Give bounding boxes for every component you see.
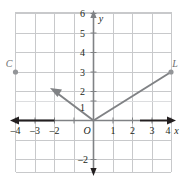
x-label-3: 3 <box>150 125 155 136</box>
x-label--4: –4 <box>10 125 21 136</box>
x-label-2: 2 <box>130 125 135 136</box>
y-label-4: 4 <box>80 47 85 58</box>
origin-label: O <box>83 125 90 136</box>
y-label-3: 3 <box>80 67 85 78</box>
x-axis-letter: x <box>173 125 179 136</box>
point-l-marker[interactable] <box>168 69 173 74</box>
point-l-label: L <box>171 58 178 69</box>
y-axis-letter: y <box>98 13 104 24</box>
y-label-6: 6 <box>80 8 85 19</box>
x-label-4: 4 <box>166 125 171 136</box>
x-label-1: 1 <box>111 125 116 136</box>
coordinate-plane-figure: –4 –3 –2 1 2 3 4 O x 6 5 4 3 2 1 –2 y C … <box>0 0 180 180</box>
y-label--2: –2 <box>77 154 88 165</box>
y-label-2: 2 <box>80 86 85 97</box>
point-c-label: C <box>6 58 13 69</box>
point-c-marker[interactable] <box>13 69 18 74</box>
y-label-5: 5 <box>80 28 85 39</box>
plot-svg: –4 –3 –2 1 2 3 4 O x 6 5 4 3 2 1 –2 y C … <box>0 0 180 180</box>
x-label--2: –2 <box>49 125 60 136</box>
y-label-1: 1 <box>80 102 85 113</box>
figure-background <box>0 0 180 180</box>
x-label--3: –3 <box>29 125 40 136</box>
